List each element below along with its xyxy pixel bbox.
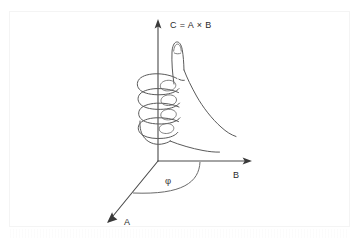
- a-axis-arrowhead: [107, 212, 117, 223]
- hand-drawing: [137, 42, 236, 152]
- finger-3-ring: [139, 103, 180, 124]
- angle-label: φ: [165, 175, 171, 186]
- thumb-web-crease: [179, 79, 185, 80]
- a-axis-label: A: [124, 217, 130, 227]
- c-axis-group: [155, 19, 162, 161]
- c-axis-label: C = A × B: [170, 20, 212, 30]
- a-axis-line: [113, 161, 158, 216]
- thumb-nail: [174, 44, 182, 52]
- finger-4-nail: [159, 124, 174, 134]
- hand-back-contour: [184, 70, 236, 137]
- wrist-contour: [170, 141, 220, 152]
- b-axis-label: B: [233, 170, 239, 180]
- figure-root: C = A × B B A φ: [0, 0, 359, 238]
- vector-cross-product-diagram: C = A × B B A φ: [0, 0, 359, 238]
- b-axis-group: [158, 158, 252, 165]
- thumb-nail-crease: [174, 53, 181, 54]
- palm-heel-contour: [140, 121, 171, 144]
- a-axis-group: [107, 161, 158, 223]
